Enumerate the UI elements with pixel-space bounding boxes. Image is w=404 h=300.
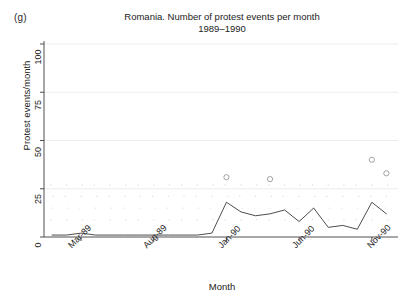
background-speckle — [240, 219, 241, 220]
background-speckle — [326, 196, 327, 197]
background-speckle — [108, 196, 109, 197]
background-speckle — [328, 184, 329, 185]
background-speckle — [256, 219, 257, 220]
background-speckle — [297, 207, 298, 208]
background-speckle — [109, 184, 110, 185]
background-speckle — [268, 219, 269, 220]
background-speckle — [140, 196, 141, 197]
background-speckle — [343, 219, 344, 220]
background-speckle — [284, 219, 285, 220]
background-speckle — [51, 207, 52, 208]
background-speckle — [329, 207, 330, 208]
background-speckle — [225, 219, 226, 220]
background-speckle — [358, 196, 359, 197]
background-speckle — [94, 184, 95, 185]
outlier-marker — [384, 171, 389, 176]
background-speckle — [210, 207, 211, 208]
y-tick-marks — [40, 44, 44, 237]
background-speckle — [96, 196, 97, 197]
background-speckle — [50, 219, 51, 220]
background-speckle — [169, 184, 170, 185]
background-speckle — [284, 184, 285, 185]
background-dot-cloud — [50, 184, 388, 220]
background-speckle — [197, 184, 198, 185]
background-speckle — [341, 207, 342, 208]
background-speckle — [355, 219, 356, 220]
background-speckle — [182, 207, 183, 208]
gridlines — [44, 44, 398, 189]
background-speckle — [387, 184, 388, 185]
background-speckle — [53, 196, 54, 197]
background-speckle — [95, 207, 96, 208]
background-speckle — [169, 219, 170, 220]
background-speckle — [168, 196, 169, 197]
background-speckle — [198, 207, 199, 208]
background-speckle — [212, 184, 213, 185]
background-speckle — [152, 196, 153, 197]
background-speckle — [109, 219, 110, 220]
background-speckle — [82, 184, 83, 185]
background-speckle — [242, 207, 243, 208]
x-tick-marks — [81, 237, 372, 241]
background-speckle — [183, 196, 184, 197]
plot-area — [0, 0, 404, 300]
background-speckle — [387, 219, 388, 220]
background-speckle — [153, 219, 154, 220]
background-speckle — [357, 207, 358, 208]
background-speckle — [271, 196, 272, 197]
background-speckle — [125, 184, 126, 185]
background-speckle — [268, 184, 269, 185]
outlier-marker — [369, 157, 374, 162]
outlier-marker — [267, 177, 272, 182]
background-speckle — [256, 184, 257, 185]
background-speckle — [312, 184, 313, 185]
background-speckle — [385, 207, 386, 208]
background-speckle — [139, 207, 140, 208]
background-speckle — [197, 219, 198, 220]
background-speckle — [371, 219, 372, 220]
background-speckle — [372, 207, 373, 208]
background-speckle — [343, 184, 344, 185]
background-speckle — [137, 184, 138, 185]
background-speckle — [137, 219, 138, 220]
background-speckle — [226, 207, 227, 208]
background-speckle — [66, 184, 67, 185]
background-speckle — [312, 219, 313, 220]
background-speckle — [50, 184, 51, 185]
background-speckle — [94, 219, 95, 220]
background-speckle — [255, 196, 256, 197]
background-speckle — [386, 196, 387, 197]
background-speckle — [154, 207, 155, 208]
background-speckle — [80, 196, 81, 197]
background-speckle — [125, 219, 126, 220]
background-speckle — [82, 219, 83, 220]
background-speckle — [111, 207, 112, 208]
background-speckle — [166, 207, 167, 208]
background-speckle — [285, 207, 286, 208]
background-speckle — [342, 196, 343, 197]
protest-events-line — [52, 202, 386, 235]
background-speckle — [355, 184, 356, 185]
background-speckle — [196, 196, 197, 197]
background-speckle — [211, 196, 212, 197]
background-speckle — [65, 196, 66, 197]
outlier-markers — [224, 157, 389, 182]
background-speckle — [371, 184, 372, 185]
background-speckle — [153, 184, 154, 185]
background-speckle — [67, 207, 68, 208]
background-speckle — [283, 196, 284, 197]
background-speckle — [227, 196, 228, 197]
background-speckle — [328, 219, 329, 220]
background-speckle — [181, 219, 182, 220]
background-speckle — [66, 219, 67, 220]
background-speckle — [370, 196, 371, 197]
figure-panel: (g) Romania. Number of protest events pe… — [0, 0, 404, 300]
background-speckle — [123, 207, 124, 208]
background-speckle — [298, 196, 299, 197]
background-speckle — [124, 196, 125, 197]
background-speckle — [225, 184, 226, 185]
background-speckle — [239, 196, 240, 197]
background-speckle — [254, 207, 255, 208]
outlier-marker — [224, 175, 229, 180]
background-speckle — [314, 196, 315, 197]
